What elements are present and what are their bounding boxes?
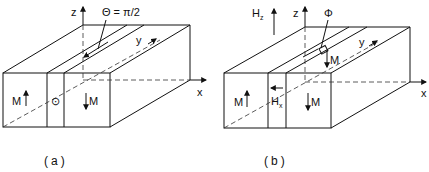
phi-leader (321, 20, 328, 48)
y-axis-label: y (136, 34, 142, 46)
y-axis-line (3, 40, 160, 127)
x-axis-label: x (197, 86, 203, 98)
wall-magnetization-arrow (84, 42, 108, 57)
domain-wall-diagram: z x y Θ = π/2 M M ⊙ (a) z x (0, 0, 429, 172)
caption-b: (b) (264, 154, 288, 168)
theta-leader (98, 20, 106, 49)
domain-left-label: M (234, 96, 243, 108)
y-axis-label: y (359, 36, 365, 48)
out-of-plane-symbol: ⊙ (51, 95, 60, 107)
caption-a: (a) (44, 154, 68, 168)
hx-label: Hx (271, 95, 283, 109)
panel-b: z x y Hz Φ M Hx M M (b) (224, 7, 427, 168)
phi-label: Φ (324, 7, 333, 19)
z-axis-label: z (71, 6, 77, 18)
x-axis-label: x (421, 87, 427, 99)
y-axis-line (224, 42, 378, 128)
domain-right-label: M (89, 95, 98, 107)
panel-a: z x y Θ = π/2 M M ⊙ (a) (3, 6, 206, 168)
domain-left-label: M (12, 95, 21, 107)
hz-label: Hz (252, 7, 264, 21)
domain-right-label: M (311, 96, 320, 108)
z-axis-label: z (293, 7, 299, 19)
y-axis-arrow (148, 39, 156, 44)
theta-label: Θ = π/2 (102, 6, 140, 18)
wall-m-label: M (330, 54, 339, 66)
